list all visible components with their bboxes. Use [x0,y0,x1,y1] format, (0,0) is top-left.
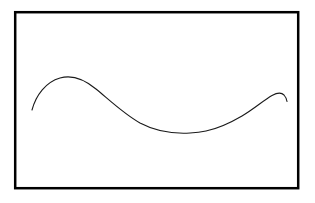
rectangular-border [15,12,298,188]
figure-container [0,0,315,203]
figure-canvas [0,0,315,203]
